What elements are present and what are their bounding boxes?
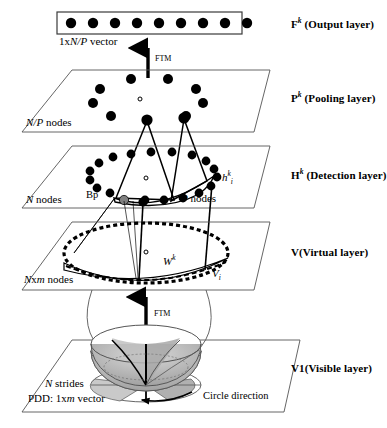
output-layer-group	[57, 12, 252, 34]
h-node-symbol: hki	[222, 170, 233, 185]
p-nodes-value: P	[181, 192, 188, 204]
output-layer-box	[57, 12, 242, 34]
v-subscript: i	[219, 273, 221, 282]
output-layer-nodes	[66, 18, 252, 28]
pooling-node-count-value: N/P	[26, 116, 43, 128]
detection-layer-symbol: H	[291, 169, 300, 181]
v-symbol: V	[212, 267, 219, 279]
weight-symbol: Wk	[163, 254, 176, 267]
virtual-node-symbol: Vi	[212, 268, 221, 282]
virtual-node-count: Nxm nodes	[24, 274, 73, 285]
output-vector-suffix: vector	[87, 35, 117, 47]
detection-layer-title: Hk (Detection layer)	[291, 168, 387, 181]
visible-layer-bowl	[90, 325, 201, 402]
pooling-layer-symbol: P	[291, 92, 298, 104]
pooling-layer-title: Pk (Pooling layer)	[291, 91, 375, 104]
pooling-layer-label: (Pooling layer)	[305, 92, 376, 104]
strides-suffix: strides	[52, 377, 83, 389]
h-subscript: i	[231, 177, 233, 186]
virtual-node-count-suffix: nodes	[45, 273, 73, 285]
p-nodes-suffix: nodes	[188, 192, 216, 204]
pooling-layer-superscript: k	[298, 90, 302, 99]
detection-layer-label: (Detection layer)	[306, 169, 386, 181]
w-superscript: k	[172, 253, 175, 262]
p-nodes-label: P nodes	[181, 193, 216, 204]
bp-label: Bp	[86, 190, 98, 201]
detection-node-count: N nodes	[26, 194, 62, 205]
virtual-node-count-m: m	[37, 273, 45, 285]
pdd-prefix: PDD: 1x	[28, 392, 67, 404]
visible-layer-symbol: V1	[291, 362, 305, 374]
output-vector-caption: 1xN/P vector	[59, 36, 117, 47]
output-layer-label: (Output layer)	[305, 18, 375, 30]
pooling-node-count: N/P nodes	[26, 117, 72, 128]
detection-layer-superscript: k	[300, 167, 304, 176]
output-vector-prefix: 1x	[59, 35, 70, 47]
output-vector-dims: N/P	[70, 35, 87, 47]
output-layer-superscript: k	[298, 16, 302, 25]
detection-node-count-suffix: nodes	[33, 193, 61, 205]
pooling-node-count-suffix: nodes	[43, 116, 71, 128]
ftm-label-top: FTM	[155, 55, 171, 63]
circle-direction-label: Circle direction	[203, 391, 269, 402]
output-layer-title: Fk (Output layer)	[291, 17, 374, 30]
visible-layer-title: V1(Visible layer)	[291, 363, 372, 374]
virtual-layer-label: (Virtual layer)	[299, 246, 368, 258]
output-layer-symbol: F	[291, 18, 298, 30]
pdd-label: PDD: 1xm vector	[28, 393, 105, 404]
virtual-layer-symbol: V	[291, 246, 299, 258]
virtual-layer-title: V(Virtual layer)	[291, 247, 368, 258]
ftm-label-bottom: FTM	[154, 310, 170, 318]
strides-label: N strides	[45, 378, 84, 389]
virtual-layer-ring	[64, 223, 228, 283]
pdd-suffix: vector	[75, 392, 105, 404]
pdd-dim: m	[67, 392, 75, 404]
w-symbol: W	[163, 255, 172, 267]
visible-layer-label: (Visible layer)	[305, 362, 372, 374]
